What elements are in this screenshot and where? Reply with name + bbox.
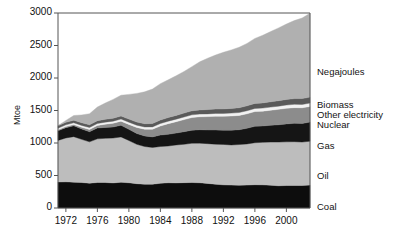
legend-label-coal: Coal: [317, 201, 337, 212]
y-tick-label: 3000: [30, 6, 52, 17]
y-tick-label: 1000: [30, 136, 52, 147]
legend-label-nuclear: Nuclear: [317, 119, 350, 130]
y-tick-label: 500: [35, 169, 52, 180]
x-tick-label: 2000: [266, 215, 306, 226]
y-tick-label: 1500: [30, 104, 52, 115]
y-tick-label: 2500: [30, 39, 52, 50]
legend-label-oil: Oil: [317, 170, 329, 181]
stacked-area-chart: 0500100015002000250030001972197619801984…: [0, 0, 398, 240]
legend-label-gas: Gas: [317, 140, 334, 151]
y-axis-title: Mtoe: [12, 104, 22, 124]
series-areas: [58, 13, 310, 208]
area-series-coal: [58, 182, 310, 208]
y-tick-label: 0: [46, 201, 52, 212]
y-tick-label: 2000: [30, 71, 52, 82]
legend-label-negajoules: Negajoules: [317, 66, 365, 77]
